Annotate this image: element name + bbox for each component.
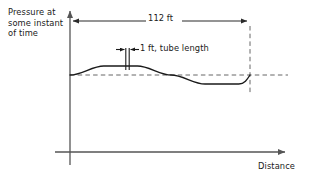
y-axis-label: Pressure at some instant of time	[8, 7, 63, 39]
dimension-label: 112 ft	[148, 13, 173, 24]
x-axis-label: Distance	[258, 161, 295, 172]
tube-length-label: 1 ft, tube length	[140, 43, 209, 54]
pressure-wave-figure: Pressure at some instant of time 112 ft …	[0, 0, 310, 180]
